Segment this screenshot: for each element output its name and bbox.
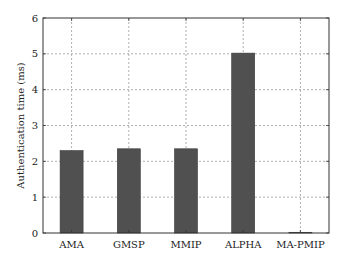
x-tick-label: ALPHA bbox=[224, 239, 262, 250]
bar-chart: 0123456 AMAGMSPMMIPALPHAMA-PMIP Authenti… bbox=[0, 0, 346, 264]
y-tick-label: 6 bbox=[32, 13, 38, 24]
bar-mmip bbox=[175, 149, 198, 233]
y-tick-label: 3 bbox=[32, 120, 38, 131]
bar-ama bbox=[60, 151, 83, 233]
x-tick-label: MMIP bbox=[170, 239, 201, 250]
y-tick-label: 0 bbox=[32, 228, 38, 239]
y-tick-label: 5 bbox=[32, 48, 38, 59]
x-tick-label: GMSP bbox=[113, 239, 145, 250]
x-tick-label: AMA bbox=[58, 239, 84, 250]
y-tick-label: 2 bbox=[32, 156, 38, 167]
bar-alpha bbox=[232, 53, 255, 233]
y-tick-label: 1 bbox=[32, 192, 38, 203]
y-tick-label: 4 bbox=[32, 84, 38, 95]
x-tick-label: MA-PMIP bbox=[276, 239, 325, 250]
y-axis-label: Authentication time (ms) bbox=[15, 62, 26, 189]
bar-gmsp bbox=[117, 149, 140, 233]
